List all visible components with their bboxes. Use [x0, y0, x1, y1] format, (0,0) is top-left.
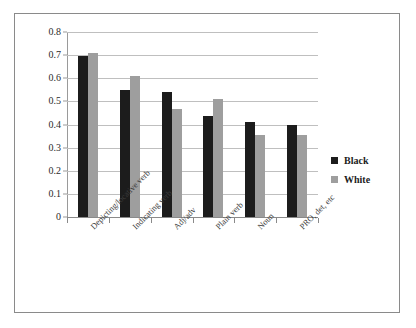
y-axis-tick-mark	[63, 101, 67, 102]
bar-group	[78, 32, 98, 217]
y-axis-tick-mark	[63, 124, 67, 125]
y-axis-tick-label: 0.6	[49, 73, 62, 83]
y-axis-tick-label: 0.5	[49, 96, 62, 106]
bar-group	[287, 32, 307, 217]
x-axis-tick-mark	[318, 218, 319, 223]
legend-label: White	[344, 175, 370, 185]
bar-black	[203, 116, 213, 217]
y-axis-tick-mark	[63, 32, 67, 33]
chart-legend: BlackWhite	[331, 151, 401, 189]
gridline	[67, 55, 318, 56]
y-axis-tick-label: 0.2	[49, 166, 62, 176]
x-axis-tick-mark	[67, 218, 68, 223]
x-axis-tick-mark	[193, 218, 194, 223]
y-axis-tick-mark	[63, 55, 67, 56]
gridline	[67, 125, 318, 126]
plot-inner: 00.10.20.30.40.50.60.70.8	[67, 32, 318, 218]
bar-white	[172, 109, 182, 217]
y-axis-tick-label: 0.3	[49, 143, 62, 153]
bar-group	[245, 32, 265, 217]
bar-white	[130, 76, 140, 217]
bar-black	[287, 125, 297, 218]
y-axis-tick-mark	[63, 193, 67, 194]
bar-white	[255, 135, 265, 217]
y-axis-tick-mark	[63, 78, 67, 79]
chart-figure: 00.10.20.30.40.50.60.70.8 Depicting/loca…	[14, 13, 400, 313]
y-axis-tick-mark	[63, 147, 67, 148]
y-axis-tick-label: 0	[56, 212, 61, 222]
y-axis-tick-label: 0.1	[49, 189, 62, 199]
x-axis-tick-mark	[234, 218, 235, 223]
x-axis-tick-mark	[109, 218, 110, 223]
gridline	[67, 101, 318, 102]
bar-white	[213, 99, 223, 217]
y-axis-tick-label: 0.4	[49, 120, 62, 130]
x-axis-tick-mark	[151, 218, 152, 223]
y-axis-tick-mark	[63, 170, 67, 171]
legend-swatch-icon	[331, 176, 338, 183]
legend-item-white[interactable]: White	[331, 170, 401, 189]
bar-black	[78, 56, 88, 217]
legend-item-black[interactable]: Black	[331, 151, 401, 170]
bar-white	[297, 135, 307, 217]
legend-label: Black	[344, 156, 368, 166]
y-axis-tick-label: 0.8	[49, 27, 62, 37]
gridline	[67, 171, 318, 172]
gridline	[67, 32, 318, 33]
gridline	[67, 148, 318, 149]
gridline	[67, 194, 318, 195]
bar-black	[245, 122, 255, 217]
plot-area: 00.10.20.30.40.50.60.70.8	[67, 32, 318, 218]
bar-group	[203, 32, 223, 217]
y-axis-tick-label: 0.7	[49, 50, 62, 60]
bar-white	[88, 53, 98, 217]
x-axis-tick-mark	[276, 218, 277, 223]
legend-swatch-icon	[331, 157, 338, 164]
gridline	[67, 78, 318, 79]
